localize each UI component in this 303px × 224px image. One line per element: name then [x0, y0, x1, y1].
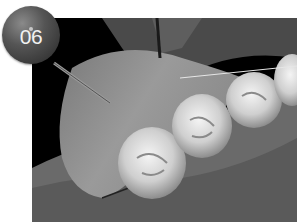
dental-illustration: [32, 18, 297, 222]
highlight-dot: [29, 27, 33, 31]
step-number-badge: 06: [2, 6, 60, 64]
illustration-frame: [32, 18, 297, 222]
